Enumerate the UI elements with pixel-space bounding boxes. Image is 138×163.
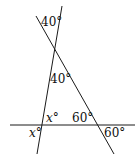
label-base-inner-angle: 60° bbox=[72, 112, 93, 124]
label-apex-angle: 40° bbox=[50, 73, 71, 85]
label-base-outer-angle: 60° bbox=[104, 127, 125, 139]
label-top-angle: 40° bbox=[41, 16, 62, 28]
line-b bbox=[36, 16, 114, 154]
label-x-upper: x° bbox=[46, 112, 59, 124]
geometry-diagram: 40° 40° x° x° 60° 60° bbox=[0, 0, 138, 163]
label-x-lower: x° bbox=[29, 127, 42, 139]
